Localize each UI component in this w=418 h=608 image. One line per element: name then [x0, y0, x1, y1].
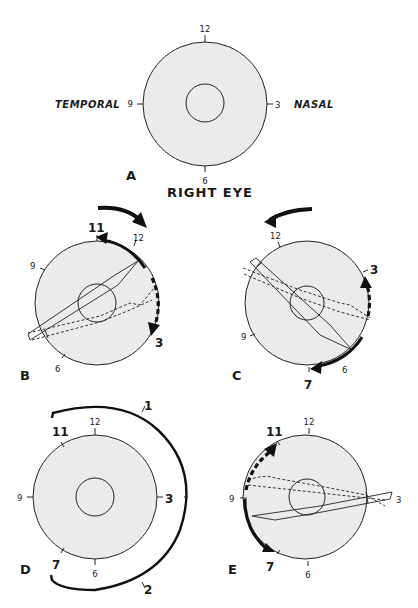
clock-11-label: 11	[52, 425, 69, 439]
panel-a: 12 6 9 3 TEMPORAL NASAL A RIGHT EYE	[55, 24, 334, 200]
panel-d: 12 6 9 11 3 7 1 2 D	[17, 399, 188, 597]
eye-disc	[33, 435, 157, 559]
panel-label-b: B	[20, 368, 30, 383]
eye-disc	[245, 241, 369, 365]
clock-9-label: 9	[241, 332, 246, 342]
clock-3-label: 3	[155, 336, 163, 350]
figure-title: RIGHT EYE	[167, 185, 253, 200]
clock-7-label: 7	[266, 560, 274, 574]
clock-3-label: 3	[275, 100, 280, 110]
clock-12-label: 12	[90, 417, 101, 427]
clock-6-label: 6	[305, 570, 310, 580]
clock-9-label: 9	[17, 493, 22, 503]
panel-label-d: D	[20, 562, 31, 577]
clock-2-label: 2	[144, 583, 152, 597]
panel-e: 12 6 9 3 11 7 E	[228, 417, 401, 580]
clock-1-label: 1	[144, 399, 152, 413]
clock-6-label: 6	[342, 365, 347, 375]
clock-12-label: 12	[270, 231, 281, 241]
nasal-label: NASAL	[294, 99, 334, 110]
clock-12-label: 12	[200, 24, 211, 34]
rotation-direction-arrow	[98, 208, 140, 220]
eye-disc	[143, 42, 267, 166]
clock-3-label: 3	[370, 263, 378, 277]
eye-diagram-figure: 12 6 9 3 TEMPORAL NASAL A RIGHT EYE 12 9…	[0, 0, 418, 608]
clock-3-label: 3	[396, 495, 401, 505]
clock-3-label: 3	[165, 492, 173, 506]
eye-disc	[243, 435, 367, 559]
panel-label-e: E	[228, 562, 237, 577]
rotation-direction-arrow	[270, 209, 312, 220]
clock-11-label: 11	[88, 221, 105, 235]
clock-6-label: 6	[92, 569, 97, 579]
clock-9-label: 9	[30, 261, 35, 271]
panel-label-c: C	[232, 368, 242, 383]
clock-11-label: 11	[266, 425, 283, 439]
clock-9-label: 9	[128, 99, 133, 109]
clock-6-label: 6	[55, 364, 60, 374]
clock-7-label: 7	[304, 378, 312, 392]
clock-12-label: 12	[133, 233, 144, 243]
panel-b: 12 9 6 11 3 B	[20, 208, 163, 383]
panel-c: 12 9 6 3 7 C	[232, 209, 378, 392]
arrowhead-icon	[264, 214, 276, 228]
clock-12-label: 12	[304, 417, 315, 427]
clock-9-label: 9	[229, 494, 234, 504]
clock-7-label: 7	[52, 558, 60, 572]
temporal-label: TEMPORAL	[55, 99, 120, 110]
panel-label-a: A	[126, 168, 136, 183]
